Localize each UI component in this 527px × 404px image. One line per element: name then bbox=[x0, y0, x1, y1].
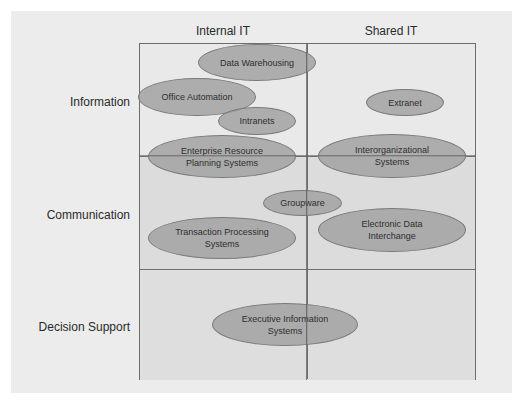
system-label: Intranets bbox=[239, 115, 274, 127]
system-label: Data Warehousing bbox=[220, 57, 294, 69]
system-interorganizational: Interorganizational Systems bbox=[318, 134, 466, 178]
row-divider-1-overlay bbox=[139, 155, 476, 156]
system-executive-information: Executive Information Systems bbox=[212, 303, 358, 346]
system-label-line2: Systems bbox=[375, 156, 410, 168]
row-label-information: Information bbox=[5, 95, 130, 109]
system-groupware: Groupware bbox=[263, 190, 342, 216]
column-header-shared-it: Shared IT bbox=[331, 24, 451, 38]
system-extranet: Extranet bbox=[366, 89, 444, 116]
row-label-decision-support: Decision Support bbox=[5, 320, 130, 334]
system-data-warehousing: Data Warehousing bbox=[198, 44, 316, 81]
column-divider-overlay bbox=[306, 43, 307, 380]
system-intranets: Intranets bbox=[218, 107, 296, 135]
system-edi: Electronic Data Interchange bbox=[318, 208, 466, 252]
system-label: Groupware bbox=[280, 197, 325, 209]
column-header-internal-it: Internal IT bbox=[163, 24, 283, 38]
system-label: Office Automation bbox=[162, 91, 233, 103]
row-label-communication: Communication bbox=[5, 208, 130, 222]
system-transaction-processing: Transaction Processing Systems bbox=[148, 217, 296, 259]
system-label-line1: Executive Information bbox=[242, 313, 329, 325]
system-label-line2: Systems bbox=[205, 238, 240, 250]
system-label-line1: Electronic Data bbox=[361, 218, 422, 230]
system-label-line2: Interchange bbox=[368, 230, 416, 242]
system-label-line1: Transaction Processing bbox=[175, 226, 269, 238]
system-label: Extranet bbox=[388, 97, 422, 109]
system-erp: Enterprise Resource Planning Systems bbox=[148, 135, 296, 178]
system-label-line2: Systems bbox=[268, 325, 303, 337]
system-label-line2: Planning Systems bbox=[186, 157, 258, 169]
